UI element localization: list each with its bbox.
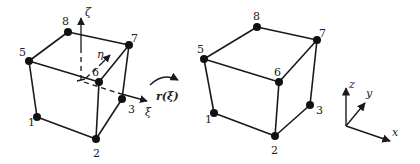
physical-node-label-6: 6	[274, 66, 281, 79]
physical-node-8	[253, 23, 261, 31]
physical-node-3	[306, 101, 314, 109]
reference-edge-2-3	[96, 99, 122, 139]
reference-edge-8-5	[29, 32, 68, 61]
reference-node-label-5: 5	[19, 46, 26, 59]
mapping-label: r(ξ)	[156, 90, 179, 103]
physical-edge-5-6	[204, 59, 279, 82]
physical-node-5	[200, 55, 208, 63]
reference-node-label-3: 3	[128, 103, 135, 116]
mapping-arrow	[150, 77, 178, 85]
physical-edge-8-5	[204, 27, 257, 59]
reference-element-edges	[29, 32, 129, 139]
hexahedron-mapping-diagram: 1235678 ζ η ξ r(ξ) 1235678 z y x	[0, 0, 420, 164]
reference-node-2	[92, 135, 100, 143]
eta-label: η	[97, 48, 104, 61]
physical-edge-6-7	[279, 40, 317, 82]
reference-node-8	[64, 28, 72, 36]
local-axes	[77, 18, 147, 101]
zeta-label: ζ	[85, 6, 92, 19]
physical-node-label-8: 8	[253, 10, 260, 23]
x-axis	[346, 126, 390, 141]
reference-edge-1-5	[29, 61, 37, 117]
reference-node-5	[25, 57, 33, 65]
reference-edge-1-2	[37, 117, 96, 139]
reference-node-6	[95, 78, 103, 86]
reference-node-label-7: 7	[131, 32, 138, 45]
physical-node-label-7: 7	[319, 27, 326, 40]
reference-node-label-6: 6	[92, 66, 99, 79]
reference-node-label-8: 8	[62, 15, 69, 28]
reference-node-3	[118, 95, 126, 103]
reference-edge-5-6	[29, 61, 99, 82]
y-axis	[346, 103, 365, 126]
physical-edge-1-5	[204, 59, 214, 113]
z-label: z	[348, 78, 355, 91]
physical-node-6	[275, 78, 283, 86]
physical-element-nodes: 1235678	[197, 10, 326, 157]
physical-node-2	[271, 132, 279, 140]
physical-node-label-5: 5	[197, 43, 204, 56]
x-label: x	[392, 126, 399, 139]
physical-edge-1-2	[214, 113, 275, 136]
reference-edge-7-8	[68, 32, 129, 45]
physical-node-label-3: 3	[316, 104, 323, 117]
physical-edge-3-7	[310, 40, 317, 105]
reference-node-label-1: 1	[28, 116, 35, 129]
physical-edge-7-8	[257, 27, 317, 40]
reference-edge-2-6	[96, 82, 99, 139]
physical-element-edges	[204, 27, 317, 136]
physical-node-label-1: 1	[205, 113, 212, 126]
physical-edge-2-6	[275, 82, 279, 136]
physical-node-label-2: 2	[271, 144, 278, 157]
reference-element-nodes: 1235678	[19, 15, 138, 160]
physical-edge-2-3	[275, 105, 310, 136]
reference-node-label-2: 2	[93, 147, 100, 160]
xi-label: ξ	[145, 106, 152, 119]
y-label: y	[365, 87, 373, 100]
